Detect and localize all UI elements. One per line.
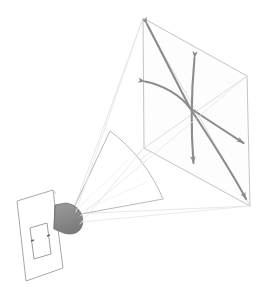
aperture-tick-left xyxy=(31,240,34,241)
figure-canvas: Projector optical path diagram Line draw… xyxy=(0,0,264,303)
aperture-tick-right xyxy=(47,235,50,236)
projector-diagram: Projector optical path diagram Line draw… xyxy=(0,0,264,303)
